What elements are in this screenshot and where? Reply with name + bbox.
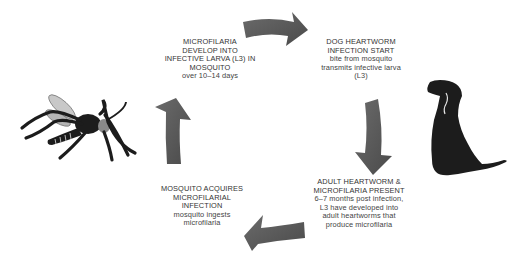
stage-description: microfilaria xyxy=(158,219,246,228)
stage-description: (L3) xyxy=(305,72,417,81)
stage-label-adult-heartworm: ADULT HEARTWORM & MICROFILARIA PRESENT 6… xyxy=(306,178,412,230)
stage-label-mosquito-acquires: MOSQUITO ACQUIRES MICROFILARIAL INFECTIO… xyxy=(158,185,246,228)
stage-label-microfilaria-develop: MICROFILARIA DEVELOP INTO INFECTIVE LARV… xyxy=(150,38,270,81)
stage-description: over 10–14 days xyxy=(150,72,270,81)
stage-description: produce microfilaria xyxy=(306,221,412,230)
heartworm-lifecycle-diagram: MICROFILARIA DEVELOP INTO INFECTIVE LARV… xyxy=(0,0,527,264)
stage-label-infection-start: DOG HEARTWORM INFECTION START bite from … xyxy=(305,38,417,81)
